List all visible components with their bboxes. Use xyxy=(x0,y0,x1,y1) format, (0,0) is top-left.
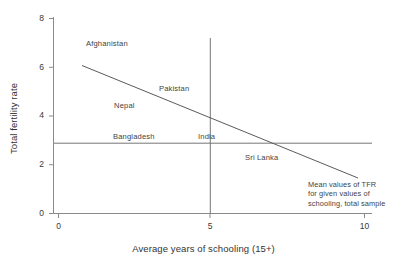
data-label-nepal: Nepal xyxy=(114,101,135,110)
y-tick-label-2: 2 xyxy=(26,159,44,169)
y-tick-label-8: 8 xyxy=(26,13,44,23)
y-axis-title: Total fertility rate xyxy=(8,39,19,199)
x-axis-ticks xyxy=(59,214,365,219)
data-label-pakistan: Pakistan xyxy=(159,84,189,93)
y-tick-label-4: 4 xyxy=(26,110,44,120)
x-tick-label-10: 10 xyxy=(354,221,376,231)
data-label-sri-lanka: Sri Lanka xyxy=(245,153,278,162)
annotation-line-1: Mean values of TFR xyxy=(308,180,385,189)
y-tick-label-0: 0 xyxy=(26,208,44,218)
annotation-line-3: schooling, total sample xyxy=(308,199,385,208)
data-label-india: India xyxy=(198,132,215,141)
data-label-bangladesh: Bangladesh xyxy=(113,132,155,141)
x-axis-title: Average years of schooling (15+) xyxy=(0,243,407,254)
trend-line xyxy=(82,66,358,179)
y-axis-ticks xyxy=(49,19,54,214)
x-tick-label-5: 5 xyxy=(199,221,221,231)
x-tick-label-0: 0 xyxy=(48,221,70,231)
trend-line-annotation: Mean values of TFR for given values of s… xyxy=(308,180,385,208)
y-tick-label-6: 6 xyxy=(26,62,44,72)
chart-figure: Average years of schooling (15+) Total f… xyxy=(0,0,407,268)
data-label-afghanistan: Afghanistan xyxy=(86,39,128,48)
annotation-line-2: for given values of xyxy=(308,189,385,198)
